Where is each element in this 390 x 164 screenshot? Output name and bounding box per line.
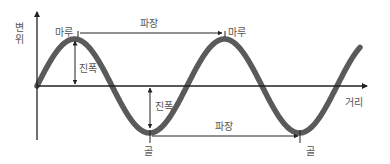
amplitude-top-label: 진폭 [79, 64, 97, 74]
y-axis-label-char-2: 위 [13, 34, 25, 46]
wave-diagram [0, 0, 390, 164]
crest-2-label: 마루 [228, 28, 246, 38]
trough-2-label: 골 [306, 147, 315, 157]
wavelength-bottom-label: 파장 [215, 122, 233, 132]
trough-1-label: 골 [144, 147, 153, 157]
x-axis-label: 거리 [345, 98, 363, 108]
crest-1-label: 마루 [55, 28, 73, 38]
wavelength-top-label: 파장 [140, 19, 158, 29]
y-axis-label-char-1: 변 [13, 22, 25, 34]
amplitude-bottom-label: 진폭 [155, 102, 173, 112]
y-axis-label: 변 위 [13, 22, 25, 46]
